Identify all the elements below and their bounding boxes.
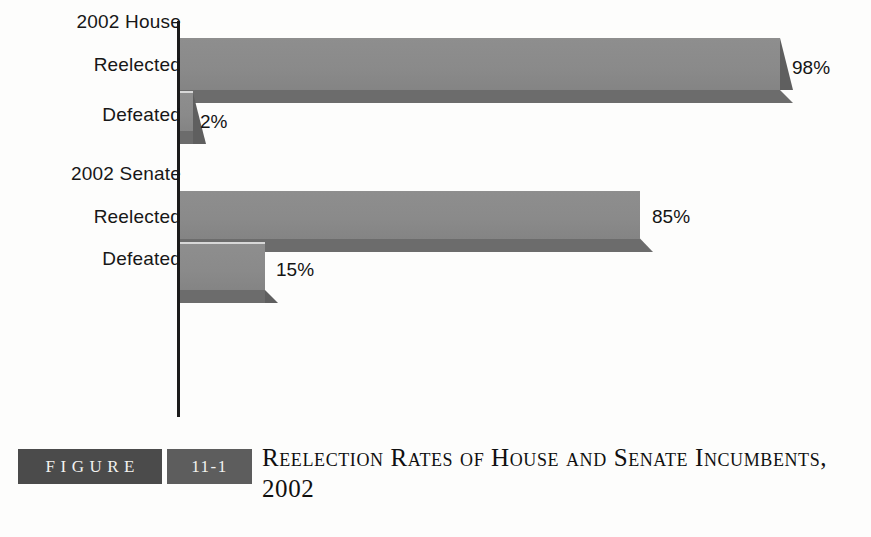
- figure-word-badge: FIGURE: [18, 449, 162, 484]
- bar-shadow: [180, 131, 193, 144]
- value-label-house-reelected: 98%: [792, 57, 830, 79]
- bar-shadow: [180, 290, 265, 303]
- bar-face: [180, 244, 265, 290]
- axis-label-house-group: 2002 House: [77, 11, 181, 33]
- figure-caption: FIGURE 11-1 Reelection Rates of House an…: [0, 440, 871, 537]
- value-label-senate-defeated: 15%: [276, 259, 314, 281]
- axis-label-senate-group: 2002 Senate: [71, 163, 181, 185]
- value-label-house-defeated: 2%: [200, 111, 227, 133]
- axis-label-house-reelected: Reelected: [94, 54, 181, 76]
- figure-page: 2002 House Reelected Defeated 2002 Senat…: [0, 0, 871, 537]
- axis-label-house-defeated: Defeated: [102, 104, 181, 126]
- bar-chart: 2002 House Reelected Defeated 2002 Senat…: [0, 0, 871, 430]
- bar-face: [180, 191, 640, 239]
- bar-face: [180, 38, 780, 90]
- value-label-senate-reelected: 85%: [652, 206, 690, 228]
- axis-label-senate-defeated: Defeated: [102, 248, 181, 270]
- axis-label-senate-reelected: Reelected: [94, 206, 181, 228]
- figure-number-badge: 11-1: [167, 449, 252, 484]
- bar-face: [180, 93, 193, 131]
- figure-title: Reelection Rates of House and Senate Inc…: [262, 443, 862, 504]
- bar-shadow: [180, 90, 780, 103]
